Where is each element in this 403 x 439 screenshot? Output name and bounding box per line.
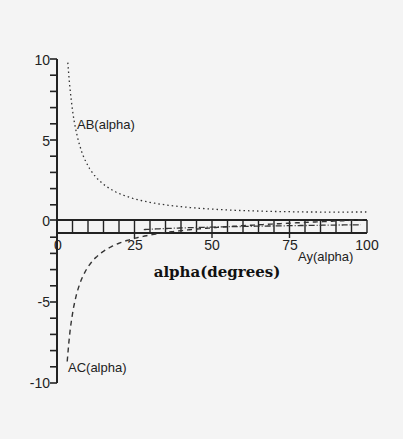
y-ticks [50,59,57,383]
y-tick-label-neg5: -5 [38,294,51,310]
x-tick-label-75: 75 [282,237,298,253]
x-axis-title: alpha(degrees) [154,263,281,281]
series-ab-label: AB(alpha) [77,117,135,132]
y-tick-label-neg10: -10 [30,375,50,391]
series-ay-label: Ay(alpha) [298,249,353,264]
series-ab-line [68,63,367,213]
y-tick-label-0: 0 [42,213,50,229]
x-tick-label-25: 25 [127,237,143,253]
x-ticks [57,220,367,238]
y-tick-label-5: 5 [42,133,50,149]
y-tick-label-10: 10 [34,52,50,68]
chart-canvas: 10 5 0 -5 -10 0 25 50 75 100 alpha(degre… [0,0,403,439]
series-ac-label: AC(alpha) [68,360,127,375]
plot-area: 10 5 0 -5 -10 0 25 50 75 100 alpha(degre… [30,52,379,391]
x-tick-label-100: 100 [355,237,379,253]
x-tick-label-50: 50 [204,237,220,253]
x-tick-label-0: 0 [54,237,62,253]
